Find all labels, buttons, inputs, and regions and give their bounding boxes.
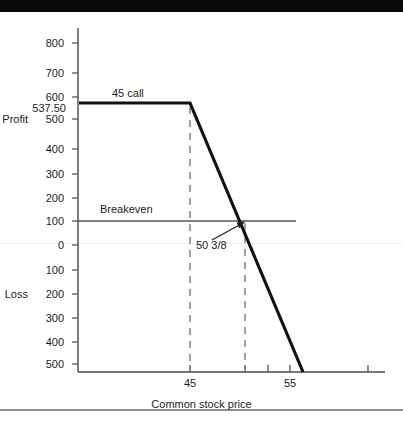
top-rule (0, 0, 403, 12)
x-axis-title: Common stock price (0, 399, 403, 410)
payoff-diagram: 800 700 600 537.50 500 400 300 200 100 0… (0, 12, 403, 409)
breakeven-price-annotation: 50 3/8 (196, 240, 227, 251)
y-tick-marks (72, 43, 78, 364)
y-tick-label-neg400: 400 (18, 337, 64, 348)
profit-axis-label: Profit (0, 114, 28, 125)
series-annotation-45-call: 45 call (112, 88, 144, 99)
y-tick-label-100: 100 (18, 216, 64, 227)
y-tick-label-neg300: 300 (18, 313, 64, 324)
y-tick-label-neg500: 500 (18, 359, 64, 370)
chart-page: 800 700 600 537.50 500 400 300 200 100 0… (0, 0, 403, 421)
y-tick-label-0: 0 (18, 240, 64, 251)
x-tick-label-55: 55 (270, 378, 310, 389)
x-tick-label-45: 45 (170, 378, 210, 389)
y-tick-label-700: 700 (18, 68, 64, 79)
y-tick-label-neg100: 100 (18, 265, 64, 276)
y-tick-label-200: 200 (18, 193, 64, 204)
y-tick-label-800: 800 (18, 38, 64, 49)
loss-axis-label: Loss (0, 289, 28, 300)
call-payoff-line (79, 103, 303, 372)
y-tick-label-400: 400 (18, 144, 64, 155)
x-tick-marks (190, 365, 368, 372)
y-tick-label-300: 300 (18, 169, 64, 180)
breakeven-annotation: Breakeven (100, 204, 153, 215)
